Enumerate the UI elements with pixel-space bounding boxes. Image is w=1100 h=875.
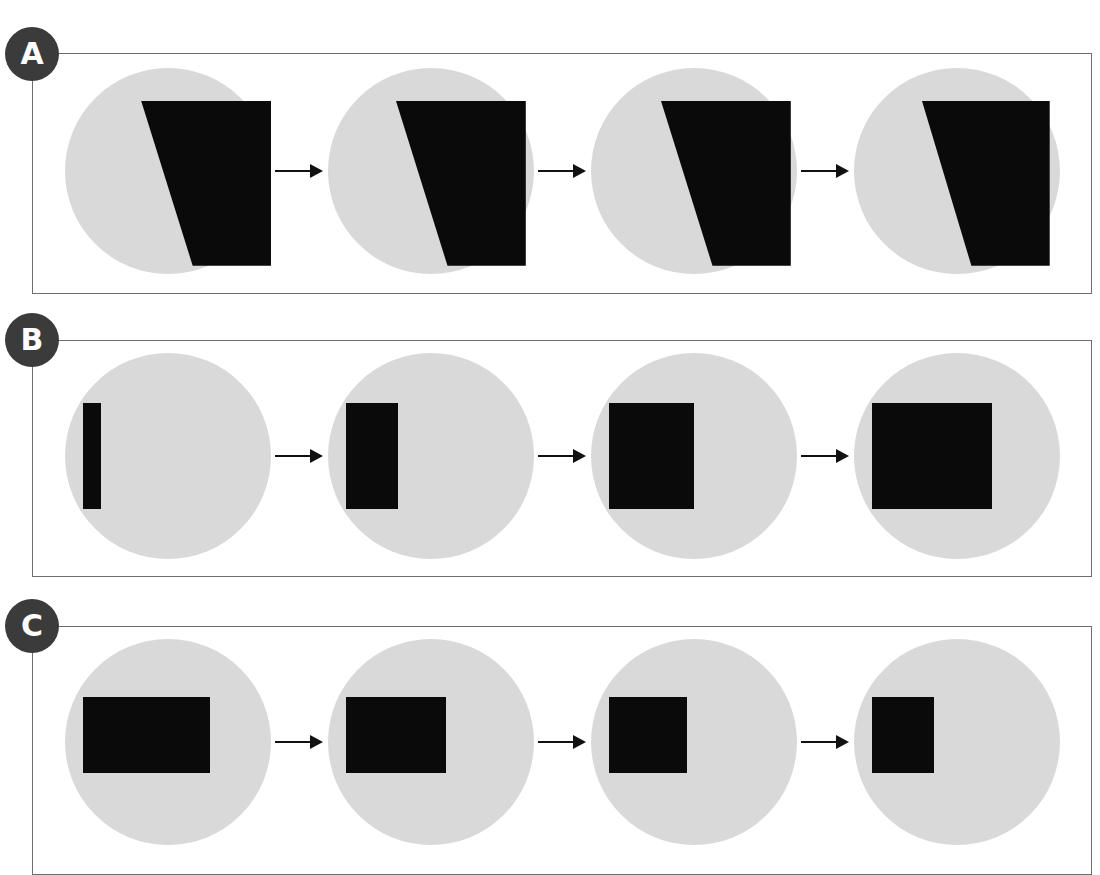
arrow-right [801,447,849,465]
arrow-right [801,733,849,751]
shape-black-rectangle [83,403,101,509]
shape-black-rectangle [872,403,992,509]
arrow-shaft [538,170,578,172]
arrow-head [310,164,323,178]
arrow-shaft [801,741,841,743]
arrow-right [538,162,586,180]
arrow-right [538,733,586,751]
arrow-right [275,733,323,751]
arrow-head [310,735,323,749]
shape-black-rectangle [346,403,398,509]
shape-black-rectangle [872,697,934,773]
arrow-right [801,162,849,180]
arrow-head [836,164,849,178]
shape-cell-b-1 [60,348,275,563]
panel-badge-label-b: B [21,325,44,355]
shape-cell-c-1 [60,634,275,849]
shape-cell-a-1 [60,63,275,278]
shape-cell-c-3 [586,634,801,849]
panel-badge-b: B [5,313,59,367]
shape-notched-quadrilateral [328,68,534,274]
shape-cell-b-2 [323,348,538,563]
arrow-head [836,449,849,463]
arrow-shaft [538,741,578,743]
shape-black-rectangle [609,403,694,509]
panel-badge-a: A [5,27,59,81]
figure-canvas: A B C [0,0,1100,875]
arrow-shaft [275,170,315,172]
arrow-right [275,447,323,465]
arrow-right [275,162,323,180]
shape-cell-b-3 [586,348,801,563]
arrow-shaft [801,170,841,172]
panel-badge-label-c: C [21,611,43,641]
shape-notched-quadrilateral [65,68,271,274]
arrow-shaft [538,455,578,457]
panel-row-b [60,348,1064,563]
arrow-head [836,735,849,749]
shape-notched-quadrilateral [854,68,1060,274]
shape-cell-a-4 [849,63,1064,278]
panel-row-a [60,63,1064,278]
shape-notched-quadrilateral [591,68,797,274]
arrow-head [573,735,586,749]
shape-cell-a-2 [323,63,538,278]
arrow-right [538,447,586,465]
shape-cell-b-4 [849,348,1064,563]
panel-badge-c: C [5,599,59,653]
shape-cell-c-2 [323,634,538,849]
arrow-shaft [275,741,315,743]
arrow-head [310,449,323,463]
shape-black-rectangle [83,697,210,773]
arrow-head [573,164,586,178]
arrow-shaft [275,455,315,457]
arrow-shaft [801,455,841,457]
shape-black-rectangle [609,697,687,773]
arrow-head [573,449,586,463]
panel-badge-label-a: A [20,39,43,69]
panel-row-c [60,634,1064,849]
shape-cell-a-3 [586,63,801,278]
shape-black-rectangle [346,697,446,773]
shape-cell-c-4 [849,634,1064,849]
